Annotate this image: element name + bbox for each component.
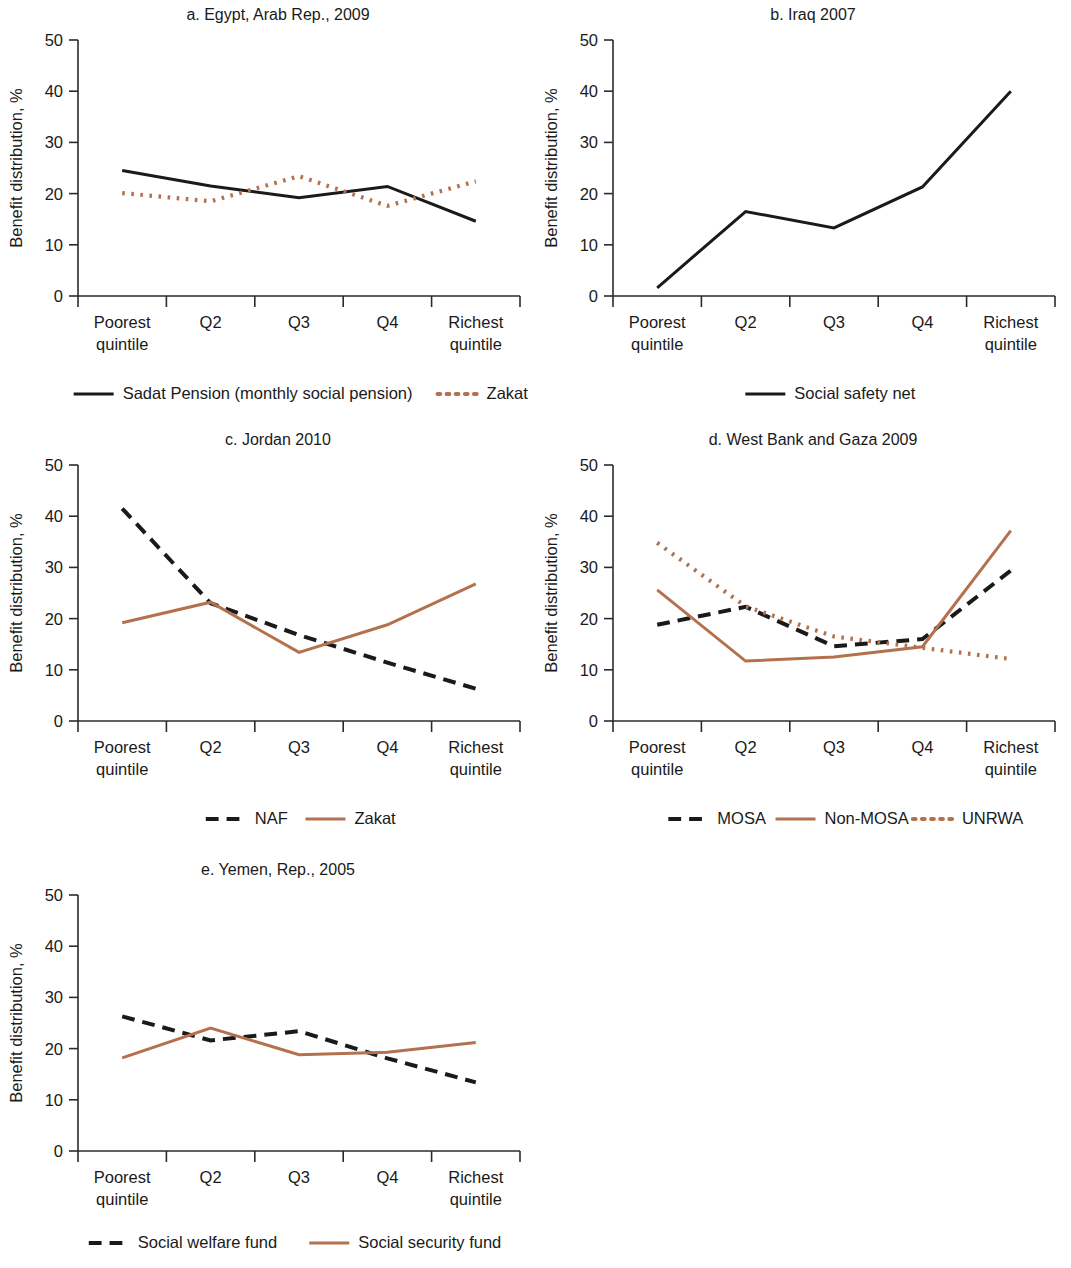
x-tick-label-line1: Poorest	[94, 313, 151, 331]
x-tick-label-line1: Richest	[448, 1168, 503, 1186]
chart-svg-b: b. Iraq 200701020304050PoorestquintileQ2…	[535, 0, 1071, 425]
x-tick-label-d-1: Q2	[735, 738, 757, 756]
x-tick-label-line2: quintile	[96, 335, 148, 353]
x-tick-label-e-2: Q3	[288, 1168, 310, 1186]
chart-svg-a: a. Egypt, Arab Rep., 200901020304050Poor…	[0, 0, 536, 425]
y-tick-label-b-30: 30	[580, 133, 598, 151]
x-tick-label-a-0: Poorestquintile	[94, 313, 151, 353]
x-tick-label-e-1: Q2	[200, 1168, 222, 1186]
x-tick-label-line2: quintile	[985, 760, 1037, 778]
x-tick-label-line1: Q4	[911, 313, 933, 331]
panel-title-c: c. Jordan 2010	[225, 431, 331, 448]
x-tick-label-line2: quintile	[96, 760, 148, 778]
legend-label-a-1: Zakat	[487, 384, 529, 402]
legend-item-c-1: Zakat	[305, 809, 396, 827]
y-axis-label-a: Benefit distribution, %	[7, 88, 25, 248]
y-tick-label-a-10: 10	[45, 236, 63, 254]
x-tick-label-c-3: Q4	[376, 738, 398, 756]
y-axis-label-c: Benefit distribution, %	[7, 513, 25, 673]
x-tick-label-line1: Q2	[200, 738, 222, 756]
y-tick-label-d-0: 0	[589, 712, 598, 730]
x-tick-label-c-2: Q3	[288, 738, 310, 756]
y-tick-label-d-20: 20	[580, 610, 598, 628]
legend-label-d-2: UNRWA	[962, 809, 1023, 827]
x-tick-label-line1: Q2	[200, 1168, 222, 1186]
series-line-d-1	[657, 531, 1011, 662]
y-tick-label-d-10: 10	[580, 661, 598, 679]
y-tick-label-b-50: 50	[580, 31, 598, 49]
x-tick-label-line1: Q3	[288, 313, 310, 331]
x-tick-label-line1: Poorest	[94, 738, 151, 756]
x-tick-label-line1: Q4	[911, 738, 933, 756]
y-tick-label-e-0: 0	[54, 1142, 63, 1160]
x-tick-label-line1: Richest	[448, 738, 503, 756]
y-tick-label-e-30: 30	[45, 988, 63, 1006]
y-tick-label-c-10: 10	[45, 661, 63, 679]
x-tick-label-b-0: Poorestquintile	[629, 313, 686, 353]
y-tick-label-d-40: 40	[580, 507, 598, 525]
x-tick-label-line1: Q2	[200, 313, 222, 331]
x-tick-label-line1: Poorest	[94, 1168, 151, 1186]
y-tick-label-a-50: 50	[45, 31, 63, 49]
x-tick-label-line1: Q2	[735, 313, 757, 331]
y-tick-label-a-40: 40	[45, 82, 63, 100]
panel-title-d: d. West Bank and Gaza 2009	[709, 431, 918, 448]
y-tick-label-d-50: 50	[580, 456, 598, 474]
legend-item-e-0: Social welfare fund	[89, 1233, 277, 1251]
x-tick-label-line1: Poorest	[629, 313, 686, 331]
y-tick-label-a-0: 0	[54, 287, 63, 305]
chart-panel-e: e. Yemen, Rep., 200501020304050Poorestqu…	[0, 855, 536, 1268]
legend-label-c-0: NAF	[255, 809, 288, 827]
x-tick-label-b-3: Q4	[911, 313, 933, 331]
x-tick-label-e-4: Richestquintile	[448, 1168, 503, 1208]
y-tick-label-b-10: 10	[580, 236, 598, 254]
x-tick-label-line2: quintile	[96, 1190, 148, 1208]
legend-item-a-0: Sadat Pension (monthly social pension)	[74, 384, 413, 402]
series-line-e-1	[122, 1028, 476, 1058]
x-tick-label-e-0: Poorestquintile	[94, 1168, 151, 1208]
chart-svg-d: d. West Bank and Gaza 200901020304050Poo…	[535, 425, 1071, 850]
x-tick-label-line2: quintile	[631, 760, 683, 778]
x-tick-label-b-1: Q2	[735, 313, 757, 331]
x-tick-label-line2: quintile	[631, 335, 683, 353]
y-tick-label-c-30: 30	[45, 558, 63, 576]
legend-item-b-0: Social safety net	[745, 384, 915, 402]
x-tick-label-line2: quintile	[985, 335, 1037, 353]
y-tick-label-a-20: 20	[45, 185, 63, 203]
x-tick-label-c-1: Q2	[200, 738, 222, 756]
chart-panel-d: d. West Bank and Gaza 200901020304050Poo…	[535, 425, 1071, 850]
x-tick-label-line1: Q3	[823, 313, 845, 331]
y-tick-label-e-40: 40	[45, 937, 63, 955]
y-tick-label-e-50: 50	[45, 886, 63, 904]
panel-title-e: e. Yemen, Rep., 2005	[201, 861, 355, 878]
y-tick-label-e-20: 20	[45, 1040, 63, 1058]
chart-svg-c: c. Jordan 201001020304050Poorestquintile…	[0, 425, 536, 850]
legend-label-d-0: MOSA	[717, 809, 766, 827]
x-tick-label-a-1: Q2	[200, 313, 222, 331]
x-tick-label-d-3: Q4	[911, 738, 933, 756]
x-tick-label-line1: Q2	[735, 738, 757, 756]
x-tick-label-c-4: Richestquintile	[448, 738, 503, 778]
x-tick-label-b-4: Richestquintile	[983, 313, 1038, 353]
x-tick-label-line1: Q3	[288, 738, 310, 756]
x-tick-label-line2: quintile	[450, 1190, 502, 1208]
y-tick-label-c-50: 50	[45, 456, 63, 474]
legend-item-d-2: UNRWA	[913, 809, 1023, 827]
x-tick-label-d-0: Poorestquintile	[629, 738, 686, 778]
legend-item-e-1: Social security fund	[309, 1233, 501, 1251]
x-tick-label-b-2: Q3	[823, 313, 845, 331]
y-axis-label-d: Benefit distribution, %	[542, 513, 560, 673]
x-tick-label-d-4: Richestquintile	[983, 738, 1038, 778]
legend-item-d-1: Non-MOSA	[776, 809, 909, 827]
x-tick-label-c-0: Poorestquintile	[94, 738, 151, 778]
series-line-c-1	[122, 584, 476, 653]
x-tick-label-line2: quintile	[450, 760, 502, 778]
legend-item-c-0: NAF	[206, 809, 288, 827]
x-tick-label-line2: quintile	[450, 335, 502, 353]
x-tick-label-d-2: Q3	[823, 738, 845, 756]
y-tick-label-b-40: 40	[580, 82, 598, 100]
x-tick-label-line1: Poorest	[629, 738, 686, 756]
legend-label-e-0: Social welfare fund	[138, 1233, 277, 1251]
legend-label-b-0: Social safety net	[794, 384, 915, 402]
y-tick-label-b-0: 0	[589, 287, 598, 305]
